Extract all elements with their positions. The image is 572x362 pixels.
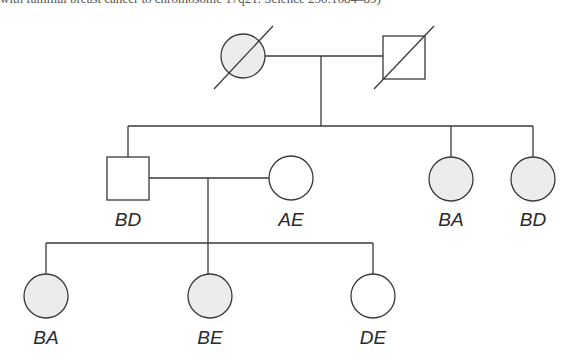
haplotype-label: BE (197, 327, 223, 348)
female-unaffected-symbol (351, 274, 395, 318)
individual-I-1 (214, 26, 273, 89)
haplotype-label: BD (115, 209, 142, 230)
pedigree-chart: BD AE BA BD BA BE DE (0, 0, 572, 362)
female-unaffected-symbol (269, 156, 313, 200)
female-affected-symbol (24, 274, 68, 318)
individual-II-3: BD (511, 157, 555, 230)
individual-III-1: BA (24, 274, 68, 348)
haplotype-label: BD (520, 209, 547, 230)
female-affected-symbol (429, 157, 473, 201)
individual-II-2: BA (429, 157, 473, 230)
individual-I-2 (374, 26, 434, 89)
haplotype-label: BA (33, 327, 58, 348)
female-affected-symbol (188, 274, 232, 318)
individual-III-2: BE (188, 274, 232, 348)
haplotype-label: AE (277, 209, 304, 230)
haplotype-label: DE (360, 327, 387, 348)
individual-III-3: DE (351, 274, 395, 348)
haplotype-label: BA (438, 209, 463, 230)
male-unaffected-symbol (107, 157, 149, 200)
female-affected-symbol (221, 34, 265, 78)
female-affected-symbol (511, 157, 555, 201)
individual-II-spouse: AE (269, 156, 313, 230)
individual-II-1: BD (107, 157, 149, 230)
